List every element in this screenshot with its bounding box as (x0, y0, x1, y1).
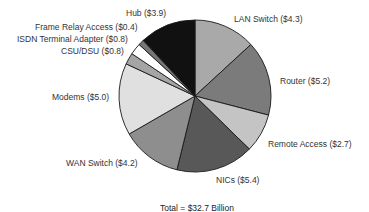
label-lan-switch: LAN Switch ($4.3) (234, 14, 303, 24)
label-csu-dsu: CSU/DSU ($0.8) (61, 46, 124, 56)
label-router: Router ($5.2) (280, 76, 330, 86)
label-hub: Hub ($3.9) (126, 8, 166, 18)
label-nics: NICs ($5.4) (216, 175, 259, 185)
label-wan-switch: WAN Switch ($4.2) (66, 158, 137, 168)
label-modems: Modems ($5.0) (52, 92, 109, 102)
label-frame-relay: Frame Relay Access ($0.4) (35, 22, 138, 32)
total-label: Total = $32.7 Billion (160, 203, 234, 212)
label-remote-access: Remote Access ($2.7) (268, 139, 352, 149)
pie-slices (119, 20, 271, 172)
label-isdn: ISDN Terminal Adapter ($0.8) (17, 34, 128, 44)
